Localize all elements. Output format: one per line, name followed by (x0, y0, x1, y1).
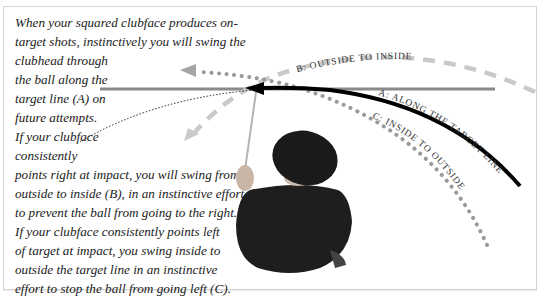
caption-leader-line (80, 90, 252, 142)
arrowhead-a-icon (245, 82, 264, 95)
hands-icon (236, 165, 254, 191)
golfer-figure (236, 92, 352, 273)
arrowhead-c-icon (180, 64, 196, 77)
golfer-head (266, 123, 344, 192)
club-shaft (245, 92, 256, 170)
label-b: B: OUTSIDE TO INSIDE (295, 51, 412, 74)
